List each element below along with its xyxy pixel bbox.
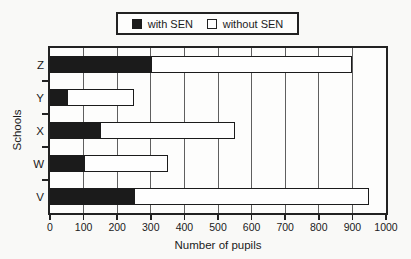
y-axis-title: Schools [11,110,23,151]
category-label-w: W [22,157,44,171]
x-axis-tick-1000 [385,215,387,220]
bar-v-without-sen [134,188,369,205]
x-tick-label-600: 600 [235,221,269,233]
bar-chart-figure: with SEN without SEN Schools ZYXWV 01002… [0,0,411,259]
category-label-v: V [22,190,44,204]
x-axis-tick-0 [49,215,51,220]
x-tick-label-0: 0 [33,221,67,233]
bar-z-without-sen [151,56,353,73]
category-label-x: X [22,124,44,138]
legend-item-with-sen: with SEN [132,18,193,30]
x-axis-tick-500 [217,215,219,220]
filled-square-icon [132,19,142,29]
x-tick-label-900: 900 [335,221,369,233]
bar-w-with-sen [50,155,84,172]
x-axis-tick-300 [150,215,152,220]
bar-v-with-sen [50,188,134,205]
x-axis-tick-100 [83,215,85,220]
x-tick-label-800: 800 [302,221,336,233]
category-label-y: Y [22,91,44,105]
legend-label-with-sen: with SEN [148,18,193,30]
x-axis-title: Number of pupils [48,239,388,251]
bar-w-without-sen [84,155,168,172]
x-tick-label-400: 400 [167,221,201,233]
x-tick-label-300: 300 [134,221,168,233]
x-axis-tick-800 [318,215,320,220]
x-tick-label-100: 100 [67,221,101,233]
x-axis-tick-700 [284,215,286,220]
x-axis-tick-400 [184,215,186,220]
bar-x-without-sen [100,122,234,139]
bar-x-with-sen [50,122,100,139]
chart-legend: with SEN without SEN [116,12,299,35]
bar-z-with-sen [50,56,151,73]
x-tick-label-200: 200 [100,221,134,233]
bar-y-without-sen [67,89,134,106]
x-tick-label-500: 500 [201,221,235,233]
category-label-z: Z [22,58,44,72]
x-tick-label-700: 700 [268,221,302,233]
x-axis-tick-900 [352,215,354,220]
x-axis-tick-600 [251,215,253,220]
legend-label-without-sen: without SEN [223,18,284,30]
bar-y-with-sen [50,89,67,106]
open-square-icon [207,19,217,29]
x-axis-tick-200 [116,215,118,220]
legend-item-without-sen: without SEN [207,18,284,30]
plot-area [48,46,388,215]
x-tick-label-1000: 1000 [369,221,403,233]
